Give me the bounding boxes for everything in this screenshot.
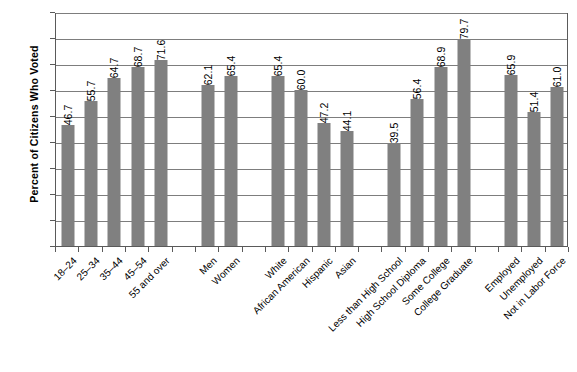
x-axis-tick-mark — [288, 247, 289, 252]
y-axis-title: Percent of Citizens Who Voted — [28, 4, 40, 244]
x-axis-tick-mark — [172, 247, 173, 252]
bar[interactable] — [411, 99, 424, 246]
bar-value-label: 65.4 — [272, 49, 284, 83]
bar[interactable] — [108, 78, 121, 246]
bar-value-label: 55.7 — [85, 74, 97, 108]
bar[interactable] — [84, 101, 97, 246]
bar-value-label: 61.0 — [551, 60, 563, 94]
bar-value-label: 47.2 — [318, 96, 330, 130]
bar-value-label: 65.9 — [505, 48, 517, 82]
bar[interactable] — [61, 125, 74, 246]
bar-slot: 68.7 — [126, 14, 149, 246]
bar-slot: 39.5 — [382, 14, 405, 246]
x-axis-tick-mark — [428, 247, 429, 252]
x-axis-tick-mark — [451, 247, 452, 252]
bar-slot: 46.7 — [56, 14, 79, 246]
x-axis-category-label: 18–24 — [51, 255, 78, 282]
bar-value-label: 68.9 — [435, 40, 447, 74]
bar-slot: 64.7 — [103, 14, 126, 246]
bar-slot: 62.1 — [196, 14, 219, 246]
bar-slot: 60.0 — [289, 14, 312, 246]
x-axis-tick-mark — [381, 247, 382, 252]
bar[interactable] — [294, 90, 307, 246]
bar[interactable] — [458, 39, 471, 246]
bar[interactable] — [154, 60, 167, 246]
x-axis-category-label: 25–34 — [74, 255, 101, 282]
x-axis-tick-mark — [218, 247, 219, 252]
bar-slot: 61.0 — [546, 14, 569, 246]
bar-value-label: 39.5 — [388, 116, 400, 150]
bar-slot: 44.1 — [336, 14, 359, 246]
x-axis-tick-mark — [242, 247, 243, 252]
bar[interactable] — [388, 143, 401, 246]
bar[interactable] — [224, 76, 237, 246]
x-axis-tick-mark — [195, 247, 196, 252]
bar-value-label: 64.7 — [108, 51, 120, 85]
x-axis-category-label: Asian — [333, 255, 358, 280]
bar-slot: 51.4 — [522, 14, 545, 246]
bar[interactable] — [341, 131, 354, 246]
bar-slot: 55.7 — [79, 14, 102, 246]
x-axis-tick-mark — [102, 247, 103, 252]
voter-turnout-bar-chart: Percent of Citizens Who Voted 9080706050… — [0, 0, 577, 372]
bar-slot: 47.2 — [313, 14, 336, 246]
bar-value-label: 51.4 — [528, 85, 540, 119]
bar-slot: 65.4 — [266, 14, 289, 246]
bar-value-label: 44.1 — [341, 104, 353, 138]
x-axis-tick-mark — [335, 247, 336, 252]
x-axis-tick-mark — [55, 247, 56, 252]
bar-slot: 56.4 — [406, 14, 429, 246]
bar-value-label: 65.4 — [225, 49, 237, 83]
x-axis-tick-mark — [405, 247, 406, 252]
x-axis-tick-mark — [312, 247, 313, 252]
bar-value-label: 56.4 — [411, 72, 423, 106]
bar[interactable] — [318, 123, 331, 246]
bar-slot: 79.7 — [452, 14, 475, 246]
bar-slot: 65.9 — [499, 14, 522, 246]
bar-slot: 65.4 — [219, 14, 242, 246]
bar[interactable] — [504, 75, 517, 246]
bar[interactable] — [201, 85, 214, 246]
bar-value-label: 46.7 — [62, 98, 74, 132]
bar[interactable] — [528, 112, 541, 246]
x-axis-tick-mark — [265, 247, 266, 252]
bar-value-label: 71.6 — [155, 33, 167, 67]
bar-value-label: 68.7 — [132, 40, 144, 74]
bar-slot: 71.6 — [149, 14, 172, 246]
x-axis-category-label: 35–44 — [98, 255, 125, 282]
bar[interactable] — [434, 67, 447, 246]
x-axis-tick-mark — [475, 247, 476, 252]
bar[interactable] — [131, 67, 144, 246]
x-axis-tick-mark — [358, 247, 359, 252]
bar[interactable] — [551, 87, 564, 246]
bar-value-label: 60.0 — [295, 63, 307, 97]
bar-value-label: 79.7 — [458, 12, 470, 46]
bar-series: 46.755.764.768.771.662.165.465.460.047.2… — [56, 14, 567, 246]
bar[interactable] — [271, 76, 284, 246]
x-axis-tick-mark — [521, 247, 522, 252]
bar-value-label: 62.1 — [202, 58, 214, 92]
plot-area: 46.755.764.768.771.662.165.465.460.047.2… — [55, 13, 568, 247]
x-axis-tick-mark — [148, 247, 149, 252]
x-axis-tick-mark — [545, 247, 546, 252]
bar-slot: 68.9 — [429, 14, 452, 246]
x-axis-tick-mark — [498, 247, 499, 252]
x-axis-tick-mark — [125, 247, 126, 252]
x-axis-tick-mark — [78, 247, 79, 252]
x-axis-tick-mark — [568, 247, 569, 252]
